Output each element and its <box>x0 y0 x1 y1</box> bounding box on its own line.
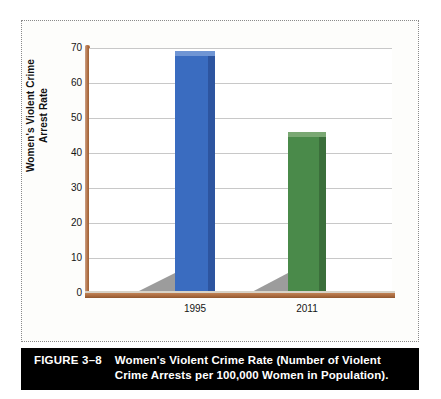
figure-caption: FIGURE 3–8 Women's Violent Crime Rate (N… <box>21 348 419 390</box>
y-axis-line <box>85 46 89 295</box>
bar-side-1995 <box>208 55 215 293</box>
y-axis-title: Women's Violent Crime Arrest Rate <box>25 46 50 186</box>
gridline-40 <box>89 153 392 154</box>
bar-2011 <box>288 136 326 293</box>
y-tick-label-10: 10 <box>56 253 82 263</box>
y-tick-label-20: 20 <box>56 218 82 228</box>
gridline-20 <box>89 223 392 224</box>
y-tick-label-40: 40 <box>56 148 82 158</box>
gridline-10 <box>89 258 392 259</box>
y-tick-label-70: 70 <box>56 43 82 53</box>
y-tick-label-30: 30 <box>56 183 82 193</box>
bar-top-2011 <box>288 132 326 137</box>
y-axis-title-line1: Women's Violent Crime <box>25 59 36 172</box>
plot-area <box>89 48 392 293</box>
figure-container: Women's Violent Crime Arrest Rate 70 60 … <box>0 0 441 399</box>
x-tick-label-2011: 2011 <box>277 303 337 314</box>
y-tick-label-0: 0 <box>56 288 82 298</box>
gridline-70 <box>89 48 392 49</box>
figure-title: Women's Violent Crime Rate (Number of Vi… <box>115 353 409 383</box>
gridline-50 <box>89 118 392 119</box>
y-tick-label-60: 60 <box>56 78 82 88</box>
gridline-60 <box>89 83 392 84</box>
bar-top-1995 <box>175 51 215 56</box>
y-axis-tick-labels: 70 60 50 40 30 20 10 0 <box>52 0 82 399</box>
bar-shadow-1995 <box>135 273 175 293</box>
x-tick-label-1995: 1995 <box>165 303 225 314</box>
x-axis-line <box>85 293 395 298</box>
bar-side-2011 <box>319 136 326 293</box>
bar-shadow-2011 <box>250 273 288 293</box>
bar-1995 <box>175 55 215 293</box>
gridline-30 <box>89 188 392 189</box>
y-axis-title-line2: Arrest Rate <box>37 88 48 143</box>
y-tick-label-50: 50 <box>56 113 82 123</box>
figure-number: FIGURE 3–8 <box>34 353 115 368</box>
